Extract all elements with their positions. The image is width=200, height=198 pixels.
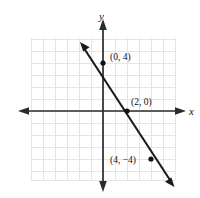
x-axis-label: x: [188, 105, 194, 117]
point-marker-2-0: [124, 108, 129, 113]
point-marker-4-n4: [148, 156, 153, 161]
y-axis: [99, 19, 107, 192]
point-label-0-4: (0, 4): [110, 52, 131, 63]
point-label-4-n4: (4, −4): [110, 155, 136, 166]
y-axis-label: y: [98, 10, 104, 22]
point-marker-0-4: [100, 60, 105, 65]
coordinate-plane-figure: (0, 4) (2, 0) (4, −4) y x: [0, 0, 200, 198]
point-label-2-0: (2, 0): [131, 97, 152, 108]
